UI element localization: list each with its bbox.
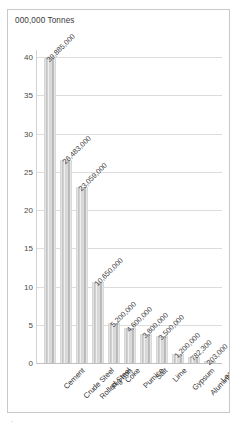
- bar-group: [44, 57, 60, 363]
- y-axis-tick-label: 40: [24, 53, 33, 62]
- y-axis-tick-label: 0: [29, 359, 33, 368]
- y-axis-tick-label: 30: [24, 129, 33, 138]
- bar: [50, 58, 56, 363]
- bar: [114, 323, 120, 363]
- bar-group: [76, 57, 92, 363]
- y-axis-tick-label: 25: [24, 167, 33, 176]
- y-axis-tick-labels: 0510152025303540: [8, 57, 33, 363]
- bar-group: [204, 57, 220, 363]
- bar-group: [92, 57, 108, 363]
- bar-group: [188, 57, 204, 363]
- bar-group: [60, 57, 76, 363]
- stray-mark: ·: [11, 420, 14, 424]
- y-axis-tick-label: 15: [24, 244, 33, 253]
- bar: [82, 187, 88, 363]
- x-axis-category-label: Cement: [62, 366, 87, 391]
- chart-unit-title: 000,000 Tonnes: [15, 16, 75, 25]
- y-axis-tick-label: 20: [24, 206, 33, 215]
- bar: [66, 160, 72, 363]
- y-axis-tick-label: 10: [24, 282, 33, 291]
- x-axis-category-label: Lime: [171, 366, 189, 384]
- x-axis-category-labels: CementCrude SteelRolled SteelPig IronCok…: [37, 366, 227, 413]
- plot-area: 39,885,00026,483,00023,059,00010,650,000…: [37, 57, 222, 363]
- y-axis-tick-label: 35: [24, 91, 33, 100]
- y-axis-tick-label: 5: [29, 320, 33, 329]
- chart-panel: 000,000 Tonnes 0510152025303540 39,885,0…: [7, 9, 230, 413]
- bar: [98, 282, 104, 363]
